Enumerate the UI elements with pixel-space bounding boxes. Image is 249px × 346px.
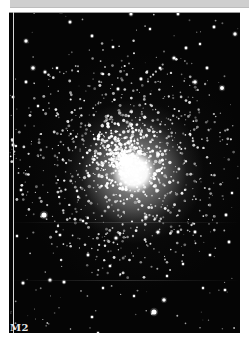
frame-top-edge — [9, 12, 240, 13]
frame-left-edge — [13, 12, 14, 333]
top-bar — [10, 0, 249, 8]
scan-streak — [9, 222, 240, 223]
scan-streak — [9, 280, 240, 281]
object-label: M2 — [10, 323, 29, 333]
star-field — [9, 12, 240, 333]
cluster-image: M2 — [9, 12, 240, 333]
